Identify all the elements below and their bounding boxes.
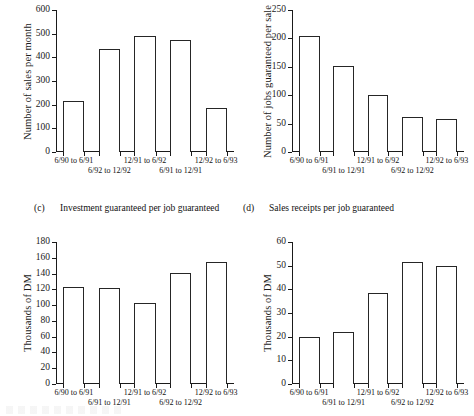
y-tick-a-4: [52, 57, 56, 58]
bar: [206, 262, 227, 384]
y-tick-c-4: [52, 321, 56, 322]
y-tick-c-6: [52, 289, 56, 290]
y-tick-label-a-5: 500: [36, 29, 50, 39]
y-tick-label-d-2: 20: [277, 332, 287, 342]
bar: [436, 266, 457, 384]
y-tick-label-b-1: 50: [277, 119, 287, 129]
bar: [134, 36, 155, 152]
y-tick-b-1: [288, 124, 292, 125]
y-tick-label-d-5: 50: [277, 261, 287, 271]
y-tick-label-c-1: 20: [41, 363, 51, 373]
bar: [333, 66, 354, 152]
y-tick-b-4: [288, 38, 292, 39]
y-tick-a-3: [52, 81, 56, 82]
y-tick-a-2: [52, 105, 56, 106]
bar: [170, 273, 191, 384]
x-axis-tick-label: 6/91 to 12/91: [159, 166, 202, 175]
x-tick-b-3-0: [402, 152, 403, 156]
x-axis-tick-label: 6/90 to 6/91: [54, 156, 93, 165]
y-tick-c-3: [52, 337, 56, 338]
x-tick-b-1-0: [333, 152, 334, 156]
x-axis-tick-label: 6/92 to 12/92: [159, 398, 202, 407]
y-axis-label-d: Thousands of DM: [262, 274, 273, 352]
caption-d-tag: (d): [243, 203, 254, 214]
bars-b: [292, 10, 464, 152]
y-tick-label-d-0: 0: [281, 379, 286, 389]
x-tick-d-3-0: [402, 384, 403, 388]
y-tick-d-1: [288, 360, 292, 361]
bar: [333, 332, 354, 384]
y-tick-label-b-5: 250: [272, 5, 286, 15]
panel-b: Number of jobs guaranteed per sale 05010…: [240, 0, 474, 180]
y-tick-label-d-1: 10: [277, 356, 287, 366]
x-axis-tick-label: 12/91 to 6/92: [124, 156, 167, 165]
bar: [436, 119, 457, 152]
y-tick-label-a-1: 100: [36, 124, 50, 134]
y-tick-label-b-3: 150: [272, 62, 286, 72]
y-tick-a-0: [52, 152, 56, 153]
y-tick-d-6: [288, 242, 292, 243]
x-tick-b-1-1: [354, 152, 355, 156]
bars-d: [292, 242, 464, 384]
panel-c: Thousands of DM 020406080100120140160180…: [0, 236, 240, 416]
caption-c-text: Investment guaranteed per job guaranteed: [60, 203, 224, 214]
y-tick-a-5: [52, 34, 56, 35]
x-tick-d-1-0: [333, 384, 334, 388]
figure-four-bar-charts: Number of sales per month 01002003004005…: [0, 0, 474, 416]
bar: [99, 49, 120, 152]
y-tick-label-c-5: 100: [36, 300, 50, 310]
y-axis-label-b: Number of jobs guaranteed per sale: [262, 5, 273, 158]
x-axis-tick-label: 12/92 to 6/93: [195, 388, 238, 397]
y-tick-d-0: [288, 384, 292, 385]
y-tick-label-a-0: 0: [45, 147, 50, 157]
panel-d: Thousands of DM 0102030405060 6/90 to 6/…: [240, 236, 474, 416]
x-tick-d-3-1: [423, 384, 424, 388]
y-axis-label-c: Thousands of DM: [22, 274, 33, 352]
x-axis-tick-label: 6/91 to 12/91: [322, 398, 365, 407]
y-tick-label-d-6: 60: [277, 237, 287, 247]
bar: [402, 262, 423, 384]
caption-c-tag: (c): [34, 203, 45, 214]
bar: [299, 337, 320, 384]
bars-c: [56, 242, 234, 384]
page-bleed-artifact: [6, 406, 126, 414]
y-tick-b-2: [288, 95, 292, 96]
x-axis-tick-label: 6/91 to 12/91: [322, 166, 365, 175]
x-tick-a-1-0: [99, 152, 100, 156]
x-axis-tick-label: 12/91 to 6/92: [124, 388, 167, 397]
y-axis-label-a: Number of sales per month: [22, 23, 33, 140]
y-tick-c-1: [52, 368, 56, 369]
x-axis-tick-label: 6/92 to 12/92: [391, 398, 434, 407]
x-tick-c-3-0: [170, 384, 171, 388]
bar: [63, 101, 84, 152]
plot-area-c: Thousands of DM 020406080100120140160180: [56, 242, 234, 384]
x-axis-tick-label: 6/92 to 12/92: [391, 166, 434, 175]
y-tick-label-a-2: 200: [36, 100, 50, 110]
plot-area-b: Number of jobs guaranteed per sale 05010…: [292, 10, 464, 152]
y-tick-label-d-3: 30: [277, 308, 287, 318]
y-tick-c-7: [52, 274, 56, 275]
y-tick-label-b-2: 100: [272, 90, 286, 100]
y-tick-c-0: [52, 384, 56, 385]
y-tick-a-1: [52, 128, 56, 129]
x-tick-c-3-1: [191, 384, 192, 388]
bar: [99, 288, 120, 384]
y-tick-d-4: [288, 289, 292, 290]
x-axis-tick-label: 6/90 to 6/91: [54, 388, 93, 397]
x-axis-tick-label: 6/90 to 6/91: [290, 156, 329, 165]
x-tick-a-3-1: [191, 152, 192, 156]
y-tick-label-c-8: 160: [36, 253, 50, 263]
x-axis-tick-label: 12/92 to 6/93: [425, 156, 468, 165]
y-tick-label-d-4: 40: [277, 285, 287, 295]
x-axis-tick-label: 12/91 to 6/92: [357, 156, 400, 165]
caption-d: (d) Sales receipts per job guaranteed: [243, 203, 458, 214]
panel-a: Number of sales per month 01002003004005…: [0, 0, 240, 180]
x-tick-c-1-0: [99, 384, 100, 388]
x-axis-tick-label: 6/92 to 12/92: [88, 166, 131, 175]
x-tick-a-3-0: [170, 152, 171, 156]
x-axis-tick-label: 12/92 to 6/93: [195, 156, 238, 165]
y-tick-label-c-9: 180: [36, 237, 50, 247]
y-tick-b-3: [288, 67, 292, 68]
y-tick-c-8: [52, 258, 56, 259]
y-tick-label-c-0: 0: [45, 379, 50, 389]
